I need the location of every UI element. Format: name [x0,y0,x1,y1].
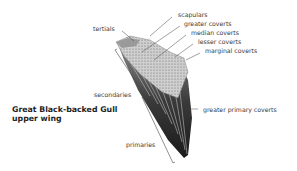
label-greater-coverts: greater coverts [184,21,232,27]
diagram-title: Great Black-backed Gull upper wing [12,106,117,124]
label-secondaries: secondaries [94,92,131,98]
label-primaries: primaries [126,142,155,148]
label-greater-primary-coverts: greater primary coverts [203,107,277,113]
label-lesser-coverts: lesser coverts [198,39,241,45]
label-median-coverts: median coverts [191,30,239,36]
label-scapulars: scapulars [178,12,208,18]
title-line-2: upper wing [12,115,117,124]
label-marginal-coverts: marginal coverts [205,48,257,54]
label-tertials: tertials [93,26,115,32]
